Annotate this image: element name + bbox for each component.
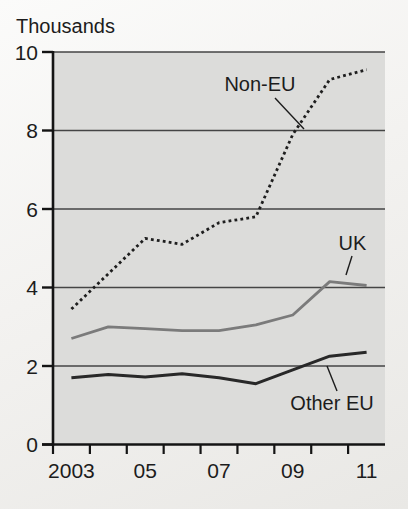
y-tick-label-6: 6 (26, 198, 38, 221)
x-tick-label-2005: 05 (134, 459, 157, 482)
line-chart-canvas: 0246810200305070911 (0, 0, 408, 509)
y-axis-unit-label: Thousands (16, 15, 115, 38)
series-label-uk: UK (339, 232, 367, 255)
y-tick-label-10: 10 (15, 41, 38, 64)
y-tick-label-2: 2 (26, 355, 38, 378)
y-tick-label-8: 8 (26, 119, 38, 142)
series-label-other-eu: Other EU (290, 392, 373, 415)
x-tick-label-2003: 2003 (48, 459, 95, 482)
x-tick-label-2007: 07 (207, 459, 230, 482)
y-tick-label-4: 4 (26, 276, 38, 299)
x-tick-label-2009: 09 (281, 459, 304, 482)
y-tick-label-0: 0 (26, 433, 38, 456)
x-tick-label-2011: 11 (356, 459, 378, 482)
series-label-non-eu: Non-EU (224, 73, 295, 96)
statistics-chart: 0246810200305070911 Thousands Non-EU UK … (0, 0, 408, 509)
